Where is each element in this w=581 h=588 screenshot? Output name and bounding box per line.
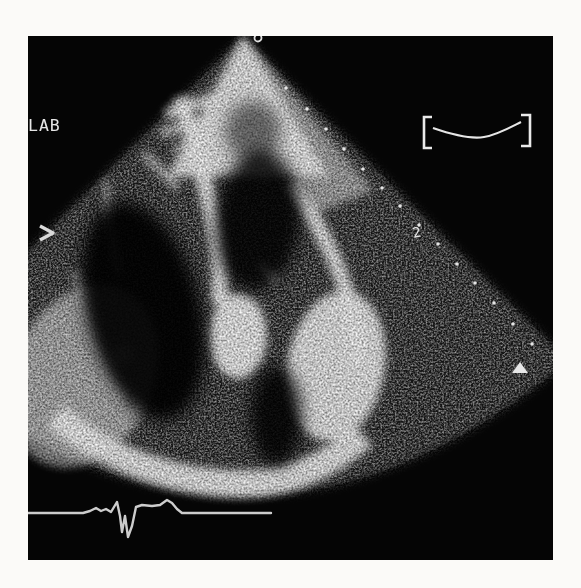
sector-edge-dot xyxy=(436,242,440,246)
sector-edge-dot xyxy=(492,301,496,305)
ecg-trace xyxy=(28,500,271,537)
sector-edge-dot xyxy=(473,281,477,285)
sector-edge-dot xyxy=(417,223,421,227)
echo-scan-svg: LAB 2 xyxy=(28,36,553,560)
scanned-page: LAB 2 xyxy=(0,0,581,588)
atrial-chamber xyxy=(250,366,302,466)
sector-edge-dot xyxy=(284,86,288,90)
sector-edge-dot xyxy=(380,186,384,190)
lab-label: LAB xyxy=(28,116,61,135)
sector-edge-dot xyxy=(361,167,365,171)
gain-curve-bracket-marker xyxy=(424,115,530,148)
bracket-right-icon xyxy=(521,115,530,146)
sector-edge-dot xyxy=(455,262,459,266)
sector-edge-dot xyxy=(511,322,515,326)
sector-edge-dot xyxy=(530,342,534,346)
sector-edge-dot xyxy=(324,127,328,131)
upper-dark-notch xyxy=(225,101,281,161)
echo-image-frame: LAB 2 xyxy=(28,36,553,560)
sector-edge-dot xyxy=(398,204,402,208)
gain-curve-line xyxy=(433,122,521,138)
ecg-trace-line xyxy=(28,500,271,537)
apex-circle-marker xyxy=(255,36,262,42)
bracket-left-icon xyxy=(424,117,432,148)
sector-edge-dot xyxy=(305,107,309,111)
sector-edge-dot xyxy=(342,147,346,151)
central-valve-mass xyxy=(210,294,266,378)
